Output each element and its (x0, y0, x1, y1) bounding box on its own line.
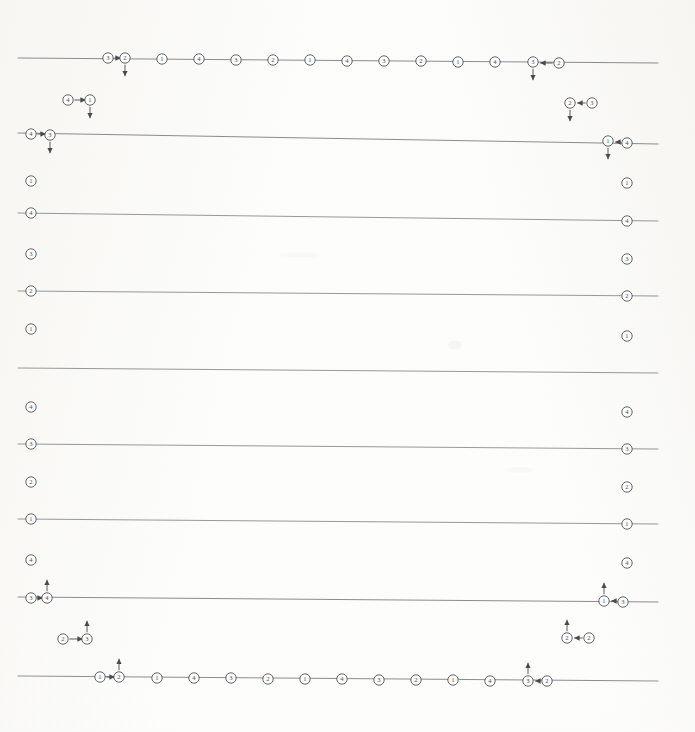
site-node-label: 2 (568, 99, 571, 106)
paper-blemish (448, 341, 462, 350)
rule-line (18, 213, 658, 221)
site-node: 3 (618, 597, 628, 607)
site-node: 1 (622, 331, 632, 341)
site-node: 4 (622, 216, 632, 226)
site-node: 3 (622, 444, 632, 454)
site-node: 4 (622, 407, 632, 417)
site-node: 1 (26, 176, 36, 186)
site-node-label: 1 (602, 597, 605, 604)
site-node: 2 (622, 482, 632, 492)
site-node-label: 1 (625, 520, 628, 527)
rule-line (18, 597, 658, 602)
site-node: 3 (587, 98, 597, 108)
site-node: 1 (305, 55, 315, 65)
site-node-label: 1 (625, 332, 628, 339)
site-node: 1 (85, 95, 95, 105)
site-node-label: 1 (625, 179, 628, 186)
site-node: 3 (374, 675, 384, 685)
site-node: 2 (58, 634, 68, 644)
site-node: 2 (268, 55, 278, 65)
site-node-label: 2 (419, 57, 422, 64)
site-node: 3 (45, 130, 55, 140)
site-nodes: 3214321432143212143214321432431432143214… (26, 53, 632, 686)
site-node: 1 (152, 673, 162, 683)
diagram-canvas: 3214321432143212143214321432431432143214… (0, 0, 695, 732)
site-node-label: 1 (456, 58, 459, 65)
site-node: 4 (26, 402, 36, 412)
site-node: 4 (26, 208, 36, 218)
site-node-label: 1 (308, 56, 311, 63)
site-node: 4 (622, 558, 632, 568)
site-node-label: 1 (160, 55, 163, 62)
rule-line (18, 519, 658, 524)
site-node-label: 1 (29, 515, 32, 522)
site-node: 4 (63, 95, 73, 105)
site-node-label: 2 (557, 59, 560, 66)
site-node: 1 (448, 675, 458, 685)
site-node: 2 (622, 291, 632, 301)
site-node: 1 (622, 519, 632, 529)
site-node: 3 (523, 676, 533, 686)
site-node: 1 (453, 57, 463, 67)
site-node: 3 (528, 57, 538, 67)
site-node-label: 2 (266, 675, 269, 682)
site-node: 1 (26, 514, 36, 524)
site-node-label: 2 (123, 54, 126, 61)
site-node-label: 2 (271, 56, 274, 63)
rule-line (18, 133, 658, 144)
site-node-label: 2 (625, 483, 628, 490)
site-node-label: 1 (29, 325, 32, 332)
site-node: 2 (542, 676, 552, 686)
site-node: 2 (26, 477, 36, 487)
site-node: 2 (554, 58, 564, 68)
site-node: 4 (337, 674, 347, 684)
site-node-label: 2 (545, 677, 548, 684)
site-node: 3 (226, 673, 236, 683)
site-node: 3 (379, 56, 389, 66)
site-node-label: 2 (587, 634, 590, 641)
site-node: 3 (622, 254, 632, 264)
site-node: 4 (622, 138, 632, 148)
node-arrows (47, 65, 608, 675)
site-node: 1 (603, 136, 613, 146)
site-node: 3 (26, 593, 36, 603)
site-node: 4 (490, 57, 500, 67)
site-node: 3 (26, 439, 36, 449)
site-node: 3 (82, 634, 92, 644)
site-node: 1 (26, 324, 36, 334)
site-node-label: 1 (606, 137, 609, 144)
site-node: 2 (565, 98, 575, 108)
site-node-label: 2 (61, 635, 64, 642)
site-node-label: 1 (29, 177, 32, 184)
site-node: 1 (300, 674, 310, 684)
site-node: 2 (26, 286, 36, 296)
site-node: 4 (342, 56, 352, 66)
site-node-label: 2 (565, 634, 568, 641)
site-node-label: 2 (117, 673, 120, 680)
site-node: 4 (194, 54, 204, 64)
rule-line (18, 368, 658, 373)
site-node-label: 1 (451, 676, 454, 683)
rule-line (18, 291, 658, 296)
site-node-label: 2 (625, 292, 628, 299)
paper-blemish (507, 467, 533, 473)
site-node-label: 1 (303, 675, 306, 682)
site-node-label: 1 (98, 673, 101, 680)
site-node-label: 2 (414, 676, 417, 683)
site-node: 2 (584, 633, 594, 643)
scanned-page: 3214321432143212143214321432431432143214… (0, 0, 695, 732)
paper-blemish (280, 253, 320, 258)
site-node-label: 2 (29, 287, 32, 294)
site-node: 4 (26, 129, 36, 139)
site-node: 1 (95, 672, 105, 682)
site-node: 2 (416, 56, 426, 66)
site-node: 2 (114, 672, 124, 682)
site-node-label: 1 (88, 96, 91, 103)
site-node: 1 (622, 178, 632, 188)
site-node: 4 (189, 673, 199, 683)
site-node: 2 (120, 53, 130, 63)
rule-line (18, 444, 658, 449)
site-node: 2 (562, 633, 572, 643)
site-node: 2 (411, 675, 421, 685)
site-node: 3 (26, 249, 36, 259)
